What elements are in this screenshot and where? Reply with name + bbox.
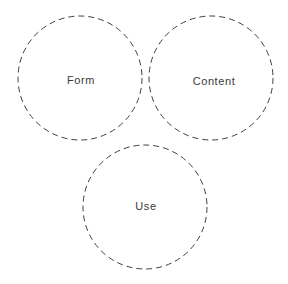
circle-label-form: Form [67,75,95,86]
diagram-canvas: Form Content Use [0,0,288,284]
diagram-svg [0,0,288,284]
circle-label-use: Use [135,201,156,212]
circle-label-content: Content [193,76,236,87]
